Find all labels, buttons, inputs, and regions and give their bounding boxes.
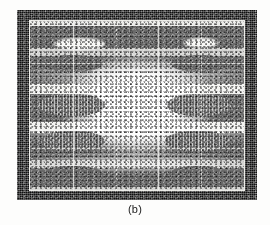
lobe-left-base	[39, 166, 105, 185]
figure-caption: (b)	[0, 203, 270, 215]
crt-screen	[29, 20, 245, 191]
crt-screen-inner	[30, 21, 244, 190]
photo-frame	[17, 10, 257, 200]
highlight-smear-left-top	[54, 38, 105, 50]
figure-root: (b)	[0, 0, 270, 225]
grid-line-horizontal-1	[30, 63, 244, 64]
grid-line-horizontal-3	[30, 148, 244, 149]
lobe-right-base	[167, 166, 229, 185]
grid-line-horizontal-2	[30, 106, 244, 107]
